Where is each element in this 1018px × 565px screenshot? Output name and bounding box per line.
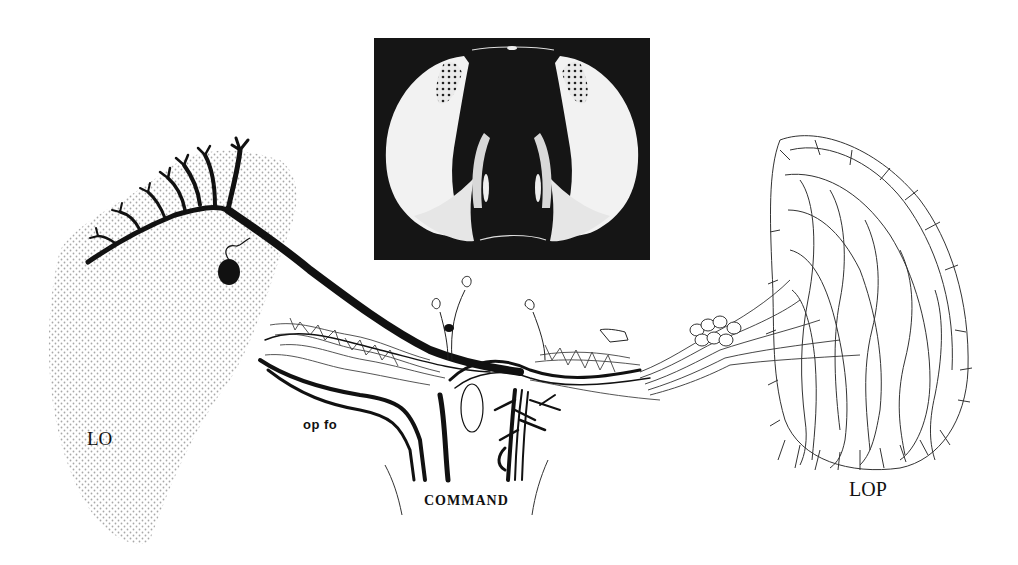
brain-outline-right (532, 460, 548, 515)
fly-head-inset-photo (374, 38, 650, 260)
fly-head-drawing (374, 38, 650, 260)
label-lo: LO (87, 428, 112, 450)
brain-outline-left (385, 465, 402, 515)
central-dark-cell-body (444, 324, 454, 332)
lobula-region (49, 151, 297, 544)
central-cell-bodies (432, 276, 628, 360)
lop-fiber-bundle (640, 280, 860, 395)
lobula-plate-neurons (766, 136, 972, 470)
lobula-cell-body (218, 259, 240, 285)
label-command: COMMAND (424, 493, 509, 509)
lop-cell-bodies (690, 316, 741, 346)
neuroanatomy-figure: LO op fo COMMAND LOP (0, 0, 1018, 565)
label-op-fo: op fo (303, 417, 337, 432)
oesophagus-outline (461, 384, 483, 432)
label-lop: LOP (849, 478, 887, 501)
